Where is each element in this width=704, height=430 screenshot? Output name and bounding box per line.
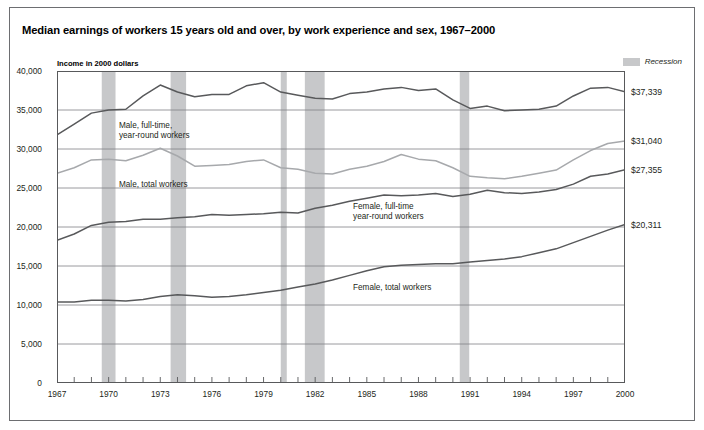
end-value-label-3: $27,355 (631, 165, 662, 175)
x-tick-label: 1991 (461, 389, 480, 399)
chart-title: Median earnings of workers 15 years old … (22, 24, 495, 36)
end-value-label-1: $37,339 (631, 87, 662, 97)
series-annotation-3: Female, full-time year-round workers (353, 202, 424, 223)
y-tick-label: 15,000 (16, 261, 42, 271)
y-tick-label: 5,000 (21, 339, 42, 349)
series-annotation-4: Female, total workers (353, 283, 431, 293)
y-tick-label: 25,000 (16, 183, 42, 193)
x-tick-label: 1973 (151, 389, 170, 399)
x-tick-label: 1997 (564, 389, 583, 399)
plot-frame (57, 71, 625, 383)
y-tick-label: 20,000 (16, 222, 42, 232)
x-tick-label: 1979 (254, 389, 273, 399)
y-tick-label: 0 (37, 378, 42, 388)
x-tick-label: 1982 (306, 389, 325, 399)
x-tick-label: 2000 (616, 389, 635, 399)
x-axis-tick-labels: 1967197019731976197919821985198819911994… (0, 389, 704, 403)
x-tick-label: 1985 (357, 389, 376, 399)
y-axis-unit-label: Income in 2000 dollars (57, 59, 138, 68)
y-tick-label: 10,000 (16, 300, 42, 310)
x-tick-label: 1976 (203, 389, 222, 399)
series-annotation-2: Male, total workers (119, 180, 188, 190)
chart-page: Median earnings of workers 15 years old … (0, 0, 704, 430)
x-tick-label: 1970 (99, 389, 118, 399)
y-tick-label: 40,000 (16, 66, 42, 76)
y-tick-label: 30,000 (16, 144, 42, 154)
x-tick-label: 1988 (409, 389, 428, 399)
end-value-label-4: $20,311 (631, 220, 661, 230)
plot-area (57, 71, 625, 383)
x-tick-label: 1994 (512, 389, 531, 399)
series-annotation-1: Male, full-time, year-round workers (119, 121, 190, 142)
x-tick-label: 1967 (48, 389, 67, 399)
y-axis-tick-labels: 05,00010,00015,00020,00025,00030,00035,0… (0, 63, 52, 375)
y-tick-label: 35,000 (16, 105, 42, 115)
end-value-label-2: $31,040 (631, 136, 662, 146)
series-end-value-labels: $37,339$31,040$27,355$20,311 (631, 63, 701, 375)
